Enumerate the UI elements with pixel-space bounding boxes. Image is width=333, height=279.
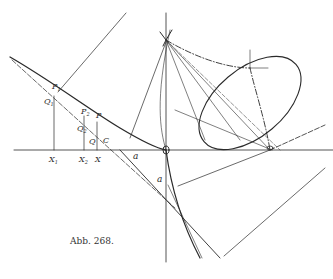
figure-caption: Abb. 268. [70, 236, 114, 246]
label-x2: X2 [78, 155, 88, 165]
curve-upper-cusp [160, 30, 170, 150]
cusp-curve-upper [166, 40, 250, 68]
asymptote-left [12, 60, 175, 208]
tangent-p1 [58, 13, 126, 92]
normal-line [178, 150, 270, 186]
label-a-vertical: a [157, 174, 162, 184]
label-x: X [94, 155, 101, 164]
tractrix-diagram: P1 Q1 P2 P Q2 Q C X1 X2 X a a [0, 0, 333, 279]
label-a-horizontal: a [133, 151, 138, 161]
label-q2: Q2 [77, 124, 87, 134]
label-q1: Q1 [44, 97, 54, 107]
tangent-lower-inner [168, 185, 202, 258]
ray-1 [166, 40, 270, 150]
label-c: C [103, 136, 109, 145]
ray-2 [166, 40, 240, 140]
label-q: Q [89, 137, 96, 146]
ray-3 [166, 40, 205, 140]
dashed-extension [270, 125, 325, 150]
ray-4 [166, 40, 280, 150]
label-p: P [95, 111, 102, 120]
label-x1: X1 [48, 155, 58, 165]
label-p1: P1 [51, 82, 61, 92]
ray-5 [175, 110, 272, 150]
geometric-construction-figure: P1 Q1 P2 P Q2 Q C X1 X2 X a a Abb. 268. [0, 0, 333, 279]
parallel-line [224, 168, 325, 256]
label-p2: P2 [80, 107, 90, 117]
tangent-lower [120, 150, 220, 258]
